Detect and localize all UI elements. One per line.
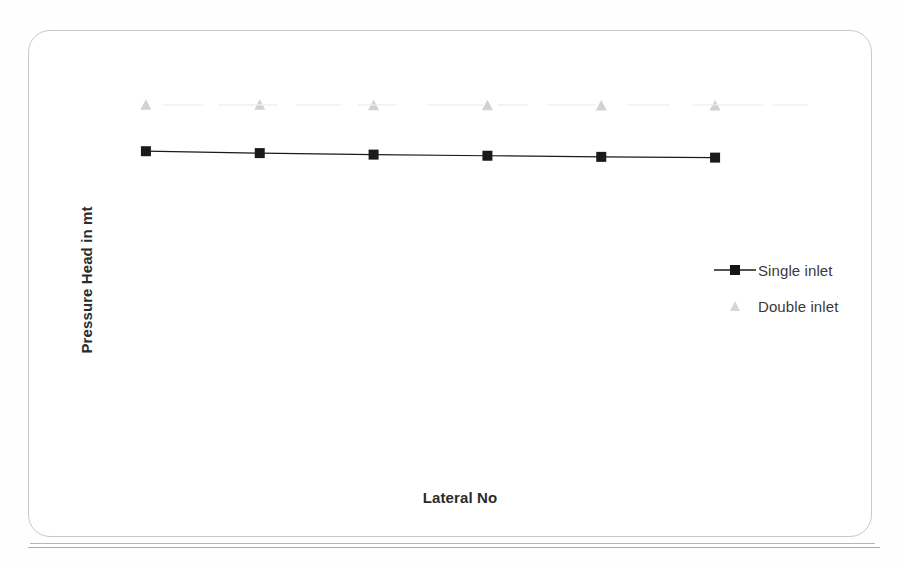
legend-label-single-inlet: Single inlet — [758, 262, 833, 279]
data-point — [596, 152, 606, 162]
data-point — [482, 100, 493, 110]
triangle-icon — [712, 296, 758, 316]
data-point — [255, 148, 265, 158]
data-point — [140, 99, 151, 109]
data-point — [141, 146, 151, 156]
legend-label-double-inlet: Double inlet — [758, 298, 838, 315]
legend-entry-single-inlet[interactable]: Single inlet — [712, 252, 877, 288]
data-point — [369, 150, 379, 160]
x-axis-title: Lateral No — [360, 489, 560, 506]
page-rule-top — [30, 543, 875, 544]
data-point — [596, 100, 607, 110]
legend-entry-double-inlet[interactable]: Double inlet — [712, 288, 877, 324]
square-with-line-icon — [712, 260, 758, 280]
data-point — [710, 153, 720, 163]
page-rule-bottom — [28, 547, 880, 548]
y-axis-title: Pressure Head in mt — [78, 165, 95, 395]
figure-canvas: Pressure Head in mt Lateral No Single in… — [0, 0, 900, 565]
chart-legend: Single inlet Double inlet — [712, 252, 877, 324]
series-line — [146, 151, 715, 157]
data-point — [482, 151, 492, 161]
series-single-inlet — [141, 146, 720, 162]
